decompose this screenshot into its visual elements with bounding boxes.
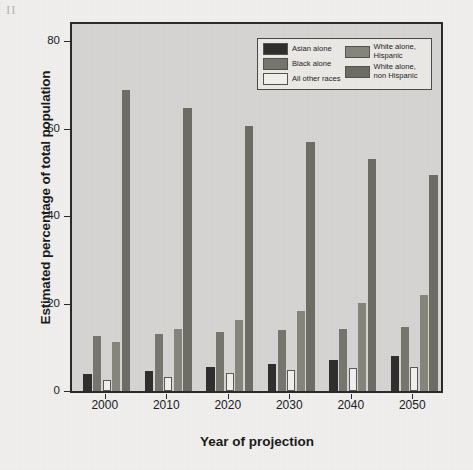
bar [268, 364, 276, 391]
bar [278, 330, 286, 391]
bar [349, 368, 357, 391]
legend-swatch [345, 66, 370, 78]
bar [103, 380, 111, 391]
legend-label: All other races [292, 75, 341, 84]
bar [145, 371, 153, 391]
legend-swatch [263, 58, 288, 70]
x-tick-label: 2040 [321, 398, 381, 412]
bar [368, 159, 376, 391]
y-tick-label: 20 [26, 297, 60, 309]
legend-swatch [263, 73, 288, 85]
x-tick-mark [166, 394, 167, 399]
x-tick-mark [228, 394, 229, 399]
legend-column-right: White alone, HispanicWhite alone, non Hi… [345, 43, 418, 85]
x-tick-mark [351, 394, 352, 399]
bar [216, 332, 224, 391]
bar [339, 329, 347, 391]
x-tick-label: 2000 [75, 398, 135, 412]
bar [112, 342, 120, 391]
bar [297, 311, 305, 391]
bar [155, 334, 163, 391]
bar [401, 327, 409, 391]
bar [391, 356, 399, 391]
bar [245, 126, 253, 391]
legend-item: Black alone [263, 58, 341, 70]
legend-label: White alone, non Hispanic [374, 63, 418, 80]
bar [122, 90, 130, 391]
legend-label: White alone, Hispanic [374, 43, 416, 60]
legend-swatch [345, 46, 370, 58]
legend-column-left: Asian aloneBlack aloneAll other races [263, 43, 341, 85]
x-tick-mark [289, 394, 290, 399]
x-tick-mark [412, 394, 413, 399]
legend-label: Black alone [292, 60, 331, 69]
legend-label: Asian alone [292, 45, 332, 54]
legend-item: White alone, non Hispanic [345, 63, 418, 80]
bar [226, 373, 234, 391]
bar [206, 367, 214, 391]
bar [164, 377, 172, 391]
y-tick-label: 0 [26, 384, 60, 396]
x-tick-label: 2030 [259, 398, 319, 412]
y-axis-title: Estimated percentage of total population [38, 33, 53, 363]
bar [306, 142, 314, 391]
chart-legend: Asian aloneBlack aloneAll other races Wh… [257, 38, 432, 90]
scan-artifact-mark: II [6, 2, 17, 18]
bar [410, 367, 418, 391]
y-tick-label: 60 [26, 122, 60, 134]
x-tick-label: 2010 [136, 398, 196, 412]
x-tick-mark [105, 394, 106, 399]
y-tick-label: 40 [26, 209, 60, 221]
bar [429, 175, 437, 391]
bar [420, 295, 428, 391]
bar [358, 303, 366, 391]
bar [329, 360, 337, 391]
chart-page: II Estimated percentage of total populat… [0, 0, 473, 470]
legend-item: All other races [263, 73, 341, 85]
bar [174, 329, 182, 391]
x-tick-label: 2050 [382, 398, 442, 412]
bar [235, 320, 243, 391]
legend-item: White alone, Hispanic [345, 43, 418, 60]
y-tick-label: 80 [26, 34, 60, 46]
bar [183, 108, 191, 391]
bar [287, 370, 295, 391]
bar [83, 374, 91, 391]
x-tick-label: 2020 [198, 398, 258, 412]
bar [93, 336, 101, 391]
legend-item: Asian alone [263, 43, 341, 55]
x-axis-title: Year of projection [70, 434, 444, 449]
legend-swatch [263, 43, 288, 55]
